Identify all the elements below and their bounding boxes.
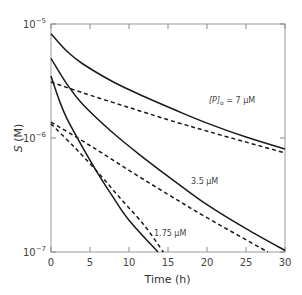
x-tick-label: 0 [48, 257, 54, 268]
annotation-1.75uM: 1.75 μM [154, 229, 186, 238]
series-annotations: [P]o = 7 μM3.5 μM1.75 μM [154, 96, 255, 238]
x-axis-label: Time (h) [144, 273, 191, 286]
series-lines [51, 34, 285, 252]
x-tick-label: 15 [162, 257, 175, 268]
series-line-7-solid [51, 34, 285, 149]
y-tick-label: 10−7 [23, 245, 46, 258]
y-tick-label: 10−6 [23, 131, 47, 144]
y-axis-label: S (M) [12, 124, 25, 153]
annotation-7uM: [P]o = 7 μM [209, 96, 255, 106]
x-tick-label: 10 [123, 257, 136, 268]
x-tick-label: 5 [87, 257, 93, 268]
series-line-1.75-solid [51, 76, 158, 252]
x-tick-label: 20 [201, 257, 214, 268]
chart: 05101520253010−510−610−7 Time (h) S (M) … [0, 0, 302, 295]
x-tick-label: 30 [279, 257, 292, 268]
series-line-7-dashed [51, 82, 285, 153]
y-tick-label: 10−5 [23, 17, 46, 30]
svg-text:S (M): S (M) [12, 124, 25, 153]
annotation-3.5uM: 3.5 μM [191, 177, 218, 186]
x-tick-label: 25 [240, 257, 253, 268]
